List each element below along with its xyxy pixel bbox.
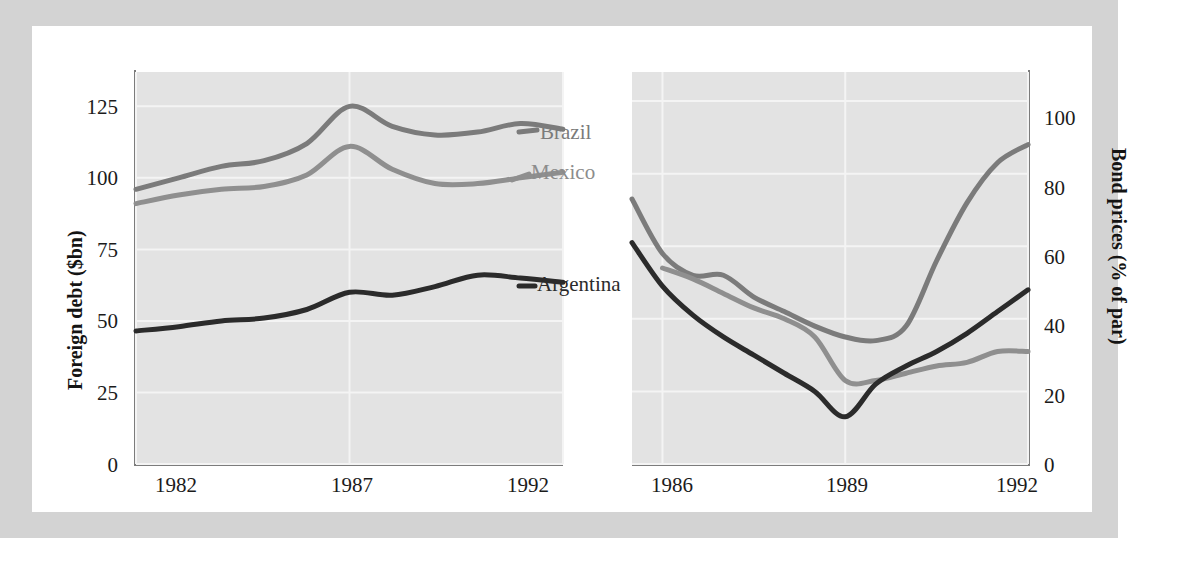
chart-area: 0 25 50 75 100 125 0 20 40 60 80 100 198… bbox=[0, 0, 1198, 578]
left-panel-y-axis-spine bbox=[134, 70, 136, 466]
right-x-tick-1989: 1989 bbox=[792, 473, 902, 498]
right-y-tick-20: 20 bbox=[1044, 384, 1104, 409]
right-panel-x-axis-spine bbox=[632, 464, 1030, 466]
right-x-tick-1986: 1986 bbox=[617, 473, 727, 498]
panel-foreign-debt-background bbox=[136, 72, 563, 464]
right-y-axis-title: Bond prices (% of par) bbox=[1107, 148, 1130, 345]
left-y-tick-100: 100 bbox=[62, 166, 118, 191]
left-y-tick-0: 0 bbox=[62, 453, 118, 478]
figure-root: 0 25 50 75 100 125 0 20 40 60 80 100 198… bbox=[0, 0, 1198, 578]
right-y-tick-60: 60 bbox=[1044, 245, 1104, 270]
series-label-brazil: Brazil bbox=[540, 120, 591, 145]
series-label-argentina: Argentina bbox=[537, 272, 621, 297]
left-x-tick-1987: 1987 bbox=[297, 473, 407, 498]
series-label-mexico: Mexico bbox=[531, 160, 595, 185]
right-x-tick-1992: 1992 bbox=[962, 473, 1072, 498]
left-x-tick-1982: 1982 bbox=[121, 473, 231, 498]
left-panel-x-axis-spine bbox=[134, 464, 563, 466]
right-y-tick-100: 100 bbox=[1044, 106, 1104, 131]
right-y-tick-80: 80 bbox=[1044, 176, 1104, 201]
right-panel-y-axis-spine bbox=[1028, 70, 1030, 466]
right-y-tick-40: 40 bbox=[1044, 314, 1104, 339]
left-x-tick-1992: 1992 bbox=[473, 473, 583, 498]
left-y-tick-125: 125 bbox=[62, 95, 118, 120]
left-y-axis-title: Foreign debt ($bn) bbox=[64, 230, 87, 390]
panel-bond-prices-background bbox=[632, 72, 1028, 464]
